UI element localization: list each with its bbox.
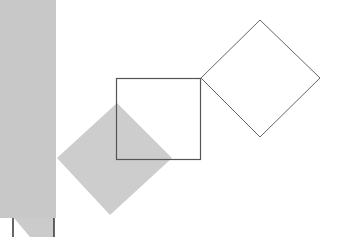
figure-description: Geometric diagram: a square with a tilte… <box>0 0 57 1</box>
rotated-square <box>201 20 320 137</box>
bottom-wedge <box>14 218 54 237</box>
diagram-svg <box>0 0 342 237</box>
diagram-canvas: Geometric diagram: a square with a tilte… <box>0 0 342 237</box>
left-gray-panel <box>0 0 56 218</box>
